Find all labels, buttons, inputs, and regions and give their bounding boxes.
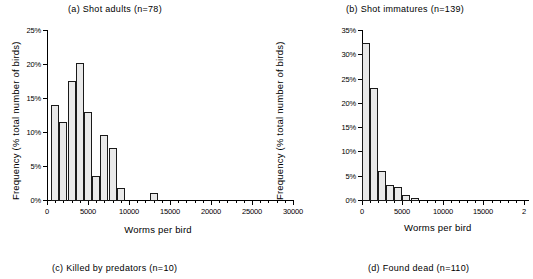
x-tick-mark-minor <box>178 201 179 203</box>
x-tick-mark-minor <box>467 201 468 203</box>
x-tick-label: 20000 <box>201 207 221 216</box>
y-tick-mark <box>43 132 47 133</box>
x-tick-mark-minor <box>435 201 436 203</box>
x-tick-mark-major <box>129 201 130 205</box>
y-tick-label: 5% <box>328 172 356 181</box>
x-tick-label: 15000 <box>160 207 180 216</box>
x-tick-mark-minor <box>378 201 379 203</box>
x-tick-mark-minor <box>104 201 105 203</box>
histogram-bar <box>117 188 125 201</box>
y-tick-label: 20% <box>13 60 41 69</box>
x-tick-mark-major <box>170 201 171 205</box>
x-tick-mark-minor <box>236 201 237 203</box>
histogram-bar <box>411 198 419 201</box>
x-tick-mark-minor <box>227 201 228 203</box>
x-tick-mark-minor <box>451 201 452 203</box>
x-tick-mark-minor <box>492 201 493 203</box>
y-tick-label: 25% <box>13 26 41 35</box>
histogram-bar <box>378 171 386 201</box>
y-tick-label: 0% <box>13 196 41 205</box>
x-tick-label: 0 <box>360 207 364 216</box>
y-tick-label: 10% <box>13 128 41 137</box>
x-tick-mark-major <box>402 201 403 205</box>
x-tick-mark-minor <box>121 201 122 203</box>
panel-b-x-axis-title: Worms per bird <box>404 222 533 233</box>
histogram-bar <box>362 43 370 201</box>
histogram-bar <box>109 148 117 201</box>
caption-found-dead: (d) Found dead (n=110) <box>368 263 469 273</box>
y-tick-mark <box>358 30 362 31</box>
y-tick-label: 35% <box>328 26 356 35</box>
x-tick-label: 5000 <box>394 207 410 216</box>
histogram-bar <box>370 88 378 201</box>
y-tick-label: 0% <box>328 196 356 205</box>
histogram-bar <box>402 195 410 201</box>
y-tick-label: 25% <box>328 75 356 84</box>
x-tick-mark-minor <box>96 201 97 203</box>
histogram-bar <box>84 112 92 201</box>
x-tick-mark-minor <box>500 201 501 203</box>
histogram-bar <box>386 185 394 201</box>
x-tick-mark-major <box>362 201 363 205</box>
histogram-bar <box>100 135 108 201</box>
panel-shot-immatures: (b) Shot immatures (n=139) Frequency (% … <box>264 0 528 240</box>
x-tick-mark-minor <box>260 201 261 203</box>
x-tick-mark-minor <box>386 201 387 203</box>
histogram-bar <box>59 122 67 201</box>
x-tick-mark-minor <box>508 201 509 203</box>
y-tick-mark <box>43 30 47 31</box>
y-tick-label: 15% <box>328 123 356 132</box>
x-tick-mark-minor <box>72 201 73 203</box>
x-tick-mark-major <box>524 201 525 205</box>
x-tick-mark-minor <box>55 201 56 203</box>
x-tick-mark-minor <box>219 201 220 203</box>
x-tick-mark-minor <box>63 201 64 203</box>
x-tick-mark-minor <box>203 201 204 203</box>
panel-a-plot-area: 0%5%10%15%20%25% 05000100001500020000250… <box>0 0 300 240</box>
x-tick-mark-minor <box>411 201 412 203</box>
x-tick-mark-minor <box>186 201 187 203</box>
y-tick-mark <box>43 166 47 167</box>
x-tick-label: 15000 <box>473 207 493 216</box>
x-tick-mark-minor <box>195 201 196 203</box>
x-tick-label: 10000 <box>119 207 139 216</box>
x-tick-mark-minor <box>137 201 138 203</box>
x-tick-mark-major <box>47 201 48 205</box>
histogram-bar <box>68 81 76 201</box>
y-tick-label: 20% <box>328 99 356 108</box>
x-tick-mark-minor <box>80 201 81 203</box>
x-tick-mark-minor <box>475 201 476 203</box>
caption-killed-by-predators: (c) Killed by predators (n=10) <box>52 263 177 273</box>
histogram-bar <box>76 63 84 201</box>
x-tick-mark-minor <box>370 201 371 203</box>
x-tick-mark-minor <box>244 201 245 203</box>
histogram-bar <box>150 193 158 201</box>
x-tick-label: 0 <box>45 207 49 216</box>
y-tick-label: 5% <box>13 162 41 171</box>
histogram-bar <box>394 187 402 201</box>
x-tick-mark-minor <box>162 201 163 203</box>
x-tick-mark-minor <box>113 201 114 203</box>
panel-a-x-axis-title: Worms per bird <box>58 224 258 235</box>
x-tick-mark-minor <box>427 201 428 203</box>
x-tick-mark-minor <box>154 201 155 203</box>
x-tick-mark-minor <box>145 201 146 203</box>
y-tick-label: 10% <box>328 147 356 156</box>
x-tick-mark-major <box>252 201 253 205</box>
x-tick-label: 10000 <box>433 207 453 216</box>
x-tick-mark-minor <box>459 201 460 203</box>
x-tick-label: 2 <box>522 207 526 216</box>
panel-a-y-axis-line <box>47 30 48 201</box>
x-tick-mark-major <box>483 201 484 205</box>
x-tick-mark-minor <box>394 201 395 203</box>
histogram-bar <box>92 176 100 201</box>
x-tick-mark-major <box>88 201 89 205</box>
y-tick-label: 15% <box>13 94 41 103</box>
histogram-bar <box>51 105 59 201</box>
panel-b-plot-area: 0%5%10%15%20%25%30%35% 0500010000150002 <box>264 0 528 240</box>
x-tick-label: 5000 <box>80 207 96 216</box>
y-tick-label: 30% <box>328 50 356 59</box>
panel-shot-adults: (a) Shot adults (n=78) Frequency (% tota… <box>0 0 300 240</box>
x-tick-mark-minor <box>419 201 420 203</box>
